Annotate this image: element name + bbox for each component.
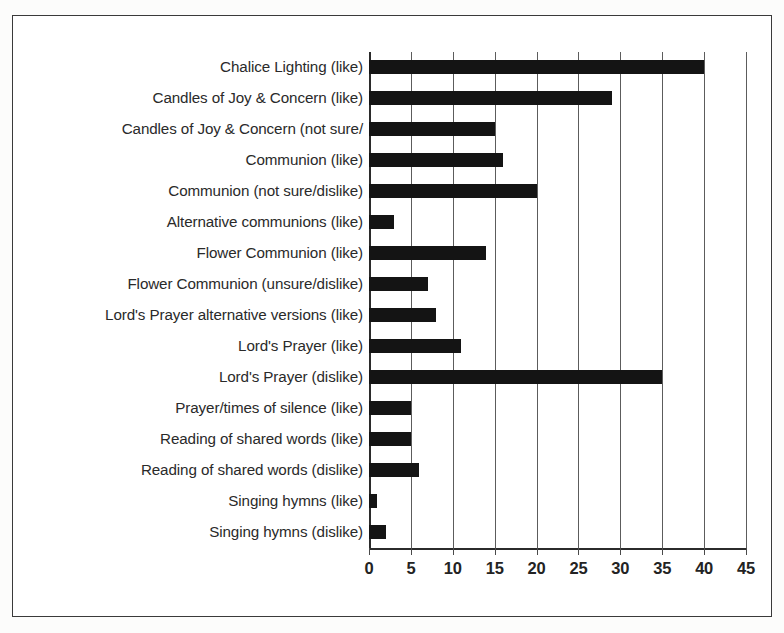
category-label: Communion (not sure/dislike) [13, 182, 363, 199]
x-tick-15 [495, 548, 496, 555]
bar-row [369, 424, 746, 455]
bar [369, 525, 386, 539]
category-label: Candles of Joy & Concern (not sure/ [13, 120, 363, 137]
chart-page: Chalice Lighting (like)Candles of Joy & … [0, 0, 784, 633]
bar-row [369, 114, 746, 145]
plot-area [369, 52, 746, 548]
bar [369, 370, 662, 384]
category-label: Lord's Prayer (like) [13, 337, 363, 354]
gridline-45 [746, 52, 747, 548]
x-tick-label-30: 30 [600, 559, 640, 578]
x-tick-25 [578, 548, 579, 555]
x-tick-label-15: 15 [475, 559, 515, 578]
x-tick-label-35: 35 [642, 559, 682, 578]
category-label: Reading of shared words (like) [13, 430, 363, 447]
bar [369, 401, 411, 415]
x-tick-20 [537, 548, 538, 555]
bar-row [369, 517, 746, 548]
category-label: Lord's Prayer alternative versions (like… [13, 306, 363, 323]
bar-row [369, 269, 746, 300]
bar-row [369, 207, 746, 238]
x-tick-30 [620, 548, 621, 555]
category-label: Singing hymns (dislike) [13, 523, 363, 540]
bar-row [369, 52, 746, 83]
bar [369, 494, 377, 508]
category-label: Flower Communion (like) [13, 244, 363, 261]
x-tick-35 [662, 548, 663, 555]
bar [369, 463, 419, 477]
bar-row [369, 455, 746, 486]
bar-row [369, 83, 746, 114]
category-label: Alternative communions (like) [13, 213, 363, 230]
bar-row [369, 238, 746, 269]
bar-row [369, 393, 746, 424]
x-tick-label-25: 25 [558, 559, 598, 578]
bar-row [369, 300, 746, 331]
category-label: Flower Communion (unsure/dislike) [13, 275, 363, 292]
bar [369, 246, 486, 260]
bar [369, 60, 704, 74]
x-tick-label-10: 10 [433, 559, 473, 578]
category-label: Chalice Lighting (like) [13, 58, 363, 75]
category-label: Prayer/times of silence (like) [13, 399, 363, 416]
bar [369, 432, 411, 446]
bar-row [369, 176, 746, 207]
x-tick-45 [746, 548, 747, 555]
bar [369, 153, 503, 167]
bar [369, 339, 461, 353]
category-label: Singing hymns (like) [13, 492, 363, 509]
bar [369, 308, 436, 322]
category-axis-labels: Chalice Lighting (like)Candles of Joy & … [13, 52, 363, 548]
bar [369, 184, 537, 198]
bar [369, 215, 394, 229]
x-tick-0 [369, 548, 370, 555]
bar [369, 122, 495, 136]
x-tick-label-45: 45 [726, 559, 766, 578]
category-label: Candles of Joy & Concern (like) [13, 89, 363, 106]
bar [369, 277, 428, 291]
x-tick-40 [704, 548, 705, 555]
bar-chart: Chalice Lighting (like)Candles of Joy & … [13, 16, 773, 618]
x-tick-label-5: 5 [391, 559, 431, 578]
bar-row [369, 145, 746, 176]
x-tick-5 [411, 548, 412, 555]
category-label: Reading of shared words (dislike) [13, 461, 363, 478]
bar-row [369, 486, 746, 517]
category-label: Communion (like) [13, 151, 363, 168]
x-tick-10 [453, 548, 454, 555]
x-axis-line [369, 548, 746, 550]
x-tick-label-40: 40 [684, 559, 724, 578]
category-label: Lord's Prayer (dislike) [13, 368, 363, 385]
bar-row [369, 362, 746, 393]
bar-row [369, 331, 746, 362]
figure-frame: Chalice Lighting (like)Candles of Joy & … [12, 15, 772, 617]
bar [369, 91, 612, 105]
x-tick-label-20: 20 [517, 559, 557, 578]
x-tick-label-0: 0 [349, 559, 389, 578]
